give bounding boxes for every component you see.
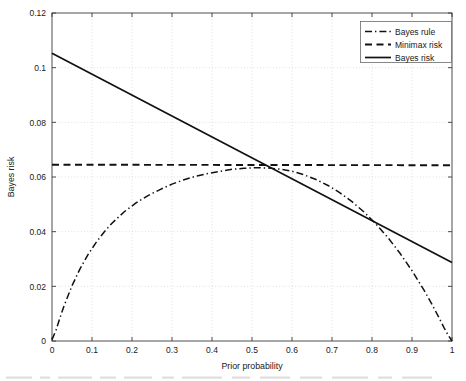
x-tick-labels: 00.10.20.30.40.50.60.70.80.91 bbox=[50, 345, 455, 355]
x-tick-label: 0.5 bbox=[246, 345, 258, 355]
legend-label: Minimax risk bbox=[395, 40, 443, 50]
bayes-risk-chart: 00.10.20.30.40.50.60.70.80.91 00.020.040… bbox=[0, 0, 466, 381]
x-axis-label: Prior probability bbox=[221, 361, 283, 371]
caption-remnant bbox=[6, 377, 432, 379]
legend[interactable]: Bayes ruleMinimax riskBayes risk bbox=[361, 22, 452, 63]
y-tick-label: 0.04 bbox=[29, 227, 46, 237]
y-tick-label: 0.02 bbox=[29, 282, 46, 292]
x-tick-label: 1 bbox=[450, 345, 455, 355]
x-tick-label: 0.3 bbox=[166, 345, 178, 355]
figure-container: 00.10.20.30.40.50.60.70.80.91 00.020.040… bbox=[0, 0, 466, 381]
legend-label: Bayes rule bbox=[395, 27, 435, 37]
y-tick-label: 0.12 bbox=[29, 8, 46, 18]
x-tick-label: 0.8 bbox=[366, 345, 378, 355]
legend-label: Bayes risk bbox=[395, 53, 435, 63]
y-tick-label: 0.08 bbox=[29, 118, 46, 128]
y-tick-labels: 00.020.040.060.080.10.12 bbox=[29, 8, 46, 346]
x-tick-label: 0.9 bbox=[406, 345, 418, 355]
y-tick-label: 0 bbox=[41, 336, 46, 346]
series-line bbox=[52, 165, 452, 166]
y-axis-label: Bayes risk bbox=[6, 156, 16, 197]
x-tick-label: 0 bbox=[50, 345, 55, 355]
y-tick-label: 0.06 bbox=[29, 172, 46, 182]
x-tick-label: 0.1 bbox=[86, 345, 98, 355]
x-tick-label: 0.2 bbox=[126, 345, 138, 355]
x-tick-label: 0.7 bbox=[326, 345, 338, 355]
x-tick-label: 0.6 bbox=[286, 345, 298, 355]
x-tick-label: 0.4 bbox=[206, 345, 218, 355]
y-tick-label: 0.1 bbox=[34, 63, 46, 73]
